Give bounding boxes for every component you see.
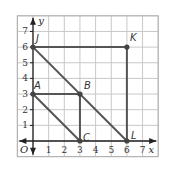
point-B xyxy=(77,91,82,96)
x-tick-label: 5 xyxy=(108,145,114,155)
y-tick-label: 4 xyxy=(22,73,28,83)
point-label-C: C xyxy=(83,132,90,143)
y-tick-label: 5 xyxy=(22,58,28,68)
point-label-A: A xyxy=(33,80,41,91)
point-label-B: B xyxy=(84,80,91,91)
point-L xyxy=(124,138,129,143)
coordinate-grid-diagram: 12345671234567OxyJKABCL xyxy=(0,0,171,174)
y-axis-arrow-up-icon xyxy=(30,18,36,25)
x-tick-label: 1 xyxy=(46,145,52,155)
y-tick-label: 1 xyxy=(22,120,28,130)
x-axis-label: x xyxy=(148,144,154,155)
labels: 12345671234567OxyJKABCL xyxy=(20,15,154,155)
point-label-K: K xyxy=(130,32,138,43)
y-axis-arrow-down-icon xyxy=(30,148,36,155)
origin-label: O xyxy=(20,144,28,155)
segment-AC xyxy=(33,94,80,141)
x-tick-label: 4 xyxy=(93,145,99,155)
x-tick-label: 2 xyxy=(61,145,67,155)
y-tick-label: 7 xyxy=(22,26,28,36)
point-A xyxy=(30,91,35,96)
y-tick-label: 6 xyxy=(22,42,28,52)
y-axis-label: y xyxy=(37,15,44,26)
x-tick-label: 7 xyxy=(140,145,146,155)
point-K xyxy=(124,45,129,50)
point-C xyxy=(77,138,82,143)
point-label-J: J xyxy=(34,33,39,44)
y-tick-label: 3 xyxy=(22,89,28,99)
x-tick-label: 3 xyxy=(77,145,83,155)
point-J xyxy=(30,45,35,50)
y-tick-label: 2 xyxy=(22,105,28,115)
point-label-L: L xyxy=(131,130,137,141)
x-tick-label: 6 xyxy=(124,145,130,155)
